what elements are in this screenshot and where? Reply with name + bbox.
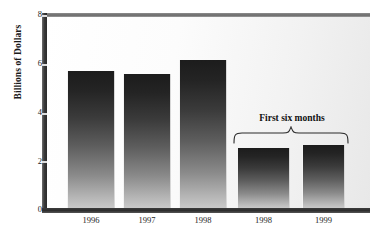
bar-1997 — [123, 74, 171, 208]
bar-1999-first-six-months — [302, 145, 345, 208]
y-axis-tick — [42, 161, 47, 163]
bar-1998-first-six-months — [237, 148, 290, 208]
x-tick-label: 1997 — [123, 215, 171, 225]
x-tick-label: 1998 — [237, 215, 290, 225]
x-axis-line — [42, 208, 370, 213]
y-axis-title: Billions of Dollars — [13, 2, 23, 122]
bar-1996 — [67, 71, 115, 208]
x-tick-label: 1999 — [302, 215, 345, 225]
y-tick-label: 4 — [28, 107, 42, 117]
y-tick-label: 6 — [28, 58, 42, 68]
y-axis-tick — [42, 113, 47, 115]
bar-chart: Billions of Dollars 8 6 4 2 0 First six … — [0, 0, 370, 242]
y-tick-label: 2 — [28, 156, 42, 166]
y-tick-label: 0 — [28, 204, 42, 214]
y-axis-line — [42, 13, 47, 213]
y-axis-tick — [42, 64, 47, 66]
bar-1998 — [179, 60, 227, 208]
x-axis-tick-labels: 1996 1997 1998 1998 1999 — [42, 215, 370, 235]
plot-area — [42, 13, 370, 213]
x-tick-label: 1998 — [179, 215, 227, 225]
x-tick-label: 1996 — [67, 215, 115, 225]
y-axis-tick — [42, 15, 47, 17]
y-axis-tick-labels: 8 6 4 2 0 — [24, 0, 42, 242]
plot-top-border — [42, 13, 370, 17]
y-tick-label: 8 — [28, 9, 42, 19]
